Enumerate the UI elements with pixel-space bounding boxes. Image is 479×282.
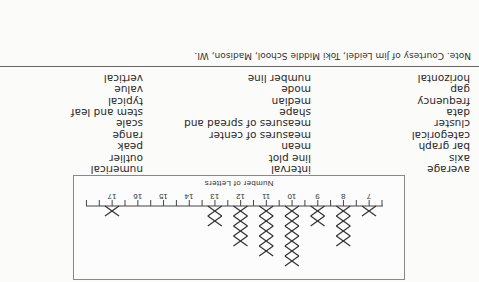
- vocab-word: cluster: [412, 118, 470, 129]
- x-mark: [336, 236, 350, 246]
- vocab-word: mean: [184, 141, 311, 152]
- vocab-word: typical: [71, 95, 143, 106]
- x-mark: [362, 206, 376, 216]
- x-mark: [336, 216, 350, 226]
- x-axis-title: Number of Letters: [204, 179, 273, 188]
- x-mark: [259, 206, 273, 216]
- word-column-2: intervalline plotmeanmeasures of centerm…: [184, 72, 311, 175]
- x-tick-label: 17: [107, 192, 116, 201]
- vocab-word: mode: [184, 84, 311, 95]
- x-mark: [285, 256, 299, 266]
- vocab-word: measures of spread and: [184, 118, 311, 129]
- vocab-word: peak: [71, 141, 143, 152]
- vocab-word: horizontal: [412, 72, 470, 83]
- x-mark: [234, 226, 248, 236]
- x-tick-label: 14: [184, 192, 193, 201]
- x-tick-label: 13: [210, 192, 219, 201]
- divider: [0, 66, 479, 67]
- vocab-word: measures of center: [184, 129, 311, 140]
- x-mark: [336, 206, 350, 216]
- word-column-3: numericaloutlierpeakrangescalestem and l…: [71, 72, 143, 175]
- vocab-word: range: [71, 129, 143, 140]
- vocab-word: frequency: [412, 95, 470, 106]
- x-tick-label: 7: [366, 192, 371, 201]
- x-mark: [311, 206, 325, 216]
- x-mark: [259, 216, 273, 226]
- x-mark: [311, 216, 325, 226]
- x-mark: [259, 236, 273, 246]
- vocab-word: number line: [184, 72, 311, 83]
- vocab-word: bar graph: [412, 141, 470, 152]
- x-tick-label: 10: [287, 192, 296, 201]
- vocab-word: scale: [71, 118, 143, 129]
- x-tick-label: 8: [341, 192, 346, 201]
- vocab-word: median: [184, 95, 311, 106]
- x-mark: [234, 216, 248, 226]
- vocab-word: categorical: [412, 129, 470, 140]
- vocab-word: shape: [184, 107, 311, 118]
- vocab-word: stem and leaf: [71, 107, 143, 118]
- line-plot-figure: 7891011121314151617 Number of Letters: [73, 175, 405, 280]
- vocab-word: numerical: [71, 164, 143, 175]
- vocab-word: line plot: [184, 152, 311, 163]
- vocab-word: value: [71, 84, 143, 95]
- x-mark: [234, 206, 248, 216]
- source-note: Note. Courtesy of Jim Leidel, Toki Middl…: [194, 51, 471, 61]
- x-mark: [234, 236, 248, 246]
- x-mark: [259, 226, 273, 236]
- x-mark: [259, 246, 273, 256]
- vocab-word: gap: [412, 84, 470, 95]
- x-mark: [285, 236, 299, 246]
- x-mark: [285, 216, 299, 226]
- line-plot-svg: 7891011121314151617 Number of Letters: [74, 176, 404, 279]
- x-mark: [285, 246, 299, 256]
- document-page: 7891011121314151617 Number of Letters av…: [0, 0, 479, 282]
- x-tick-label: 9: [315, 192, 320, 201]
- x-tick-label: 16: [133, 192, 142, 201]
- x-mark: [285, 226, 299, 236]
- vocab-word: interval: [184, 164, 311, 175]
- vocab-word: outlier: [71, 152, 143, 163]
- word-column-1: averageaxisbar graphcategoricalclusterda…: [412, 72, 470, 175]
- x-mark: [208, 216, 222, 226]
- x-mark: [336, 226, 350, 236]
- vocab-word: axis: [412, 152, 470, 163]
- x-tick-label: 15: [158, 192, 167, 201]
- vocab-word: vertical: [71, 72, 143, 83]
- x-tick-label: 11: [262, 192, 271, 201]
- x-mark: [285, 206, 299, 216]
- x-mark: [208, 206, 222, 216]
- vocab-word: average: [412, 164, 470, 175]
- x-mark: [105, 206, 119, 216]
- vocab-word: data: [412, 107, 470, 118]
- x-tick-label: 12: [236, 192, 245, 201]
